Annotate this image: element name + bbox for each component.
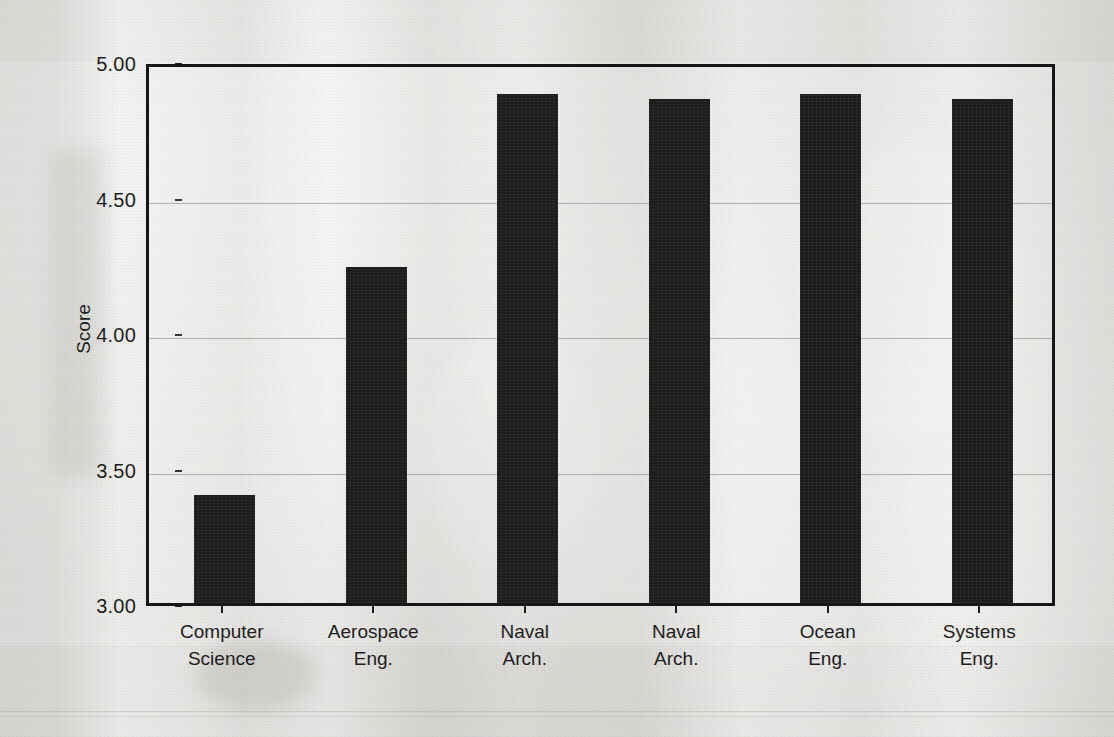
x-axis-tick-label-line: Eng. [943, 645, 1016, 672]
y-axis-tick-label: 4.50 [96, 188, 136, 211]
x-axis-tick-label-line: Arch. [652, 645, 701, 672]
y-axis-tick-labels: 5.004.504.003.503.00 [36, 64, 136, 606]
x-axis-tick-mark [675, 606, 677, 613]
x-axis-tick-label-line: Naval [500, 618, 549, 645]
x-axis-tick-label: NavalArch. [652, 618, 701, 672]
x-axis-tick-label-line: Arch. [500, 645, 549, 672]
x-axis-tick-label-line: Naval [652, 618, 701, 645]
bar-series [149, 67, 1052, 603]
bar [194, 495, 255, 603]
x-axis-tick-mark [978, 606, 980, 613]
x-axis-tick-label: ComputerScience [180, 618, 263, 672]
x-axis-tick-mark [524, 606, 526, 613]
plot-area [146, 64, 1055, 606]
x-axis-tick-label: SystemsEng. [943, 618, 1016, 672]
bar [346, 267, 407, 603]
y-axis-tick-label: 5.00 [96, 53, 136, 76]
x-axis-tick-label-line: Computer [180, 618, 263, 645]
y-axis-tick-label: 3.50 [96, 459, 136, 482]
x-axis-tick-label-line: Systems [943, 618, 1016, 645]
x-axis-tick-mark [827, 606, 829, 613]
x-axis-tick-label-line: Eng. [328, 645, 419, 672]
bar [497, 94, 558, 603]
bar [952, 99, 1013, 603]
bar [800, 94, 861, 603]
x-axis-tick-mark [221, 606, 223, 613]
bar-chart-figure: Score 5.004.504.003.503.00 ComputerScien… [0, 0, 1114, 737]
bar [649, 99, 710, 603]
y-axis-tick-label: 3.00 [96, 595, 136, 618]
x-axis-tick-label-line: Eng. [800, 645, 856, 672]
x-axis-tick-mark [372, 606, 374, 613]
x-axis-tick-label-line: Aerospace [328, 618, 419, 645]
x-axis-tick-label-line: Science [180, 645, 263, 672]
y-axis-tick-label: 4.00 [96, 324, 136, 347]
x-axis-tick-label: OceanEng. [800, 618, 856, 672]
x-axis-tick-label: NavalArch. [500, 618, 549, 672]
x-axis-tick-label-line: Ocean [800, 618, 856, 645]
x-axis-tick-label: AerospaceEng. [328, 618, 419, 672]
